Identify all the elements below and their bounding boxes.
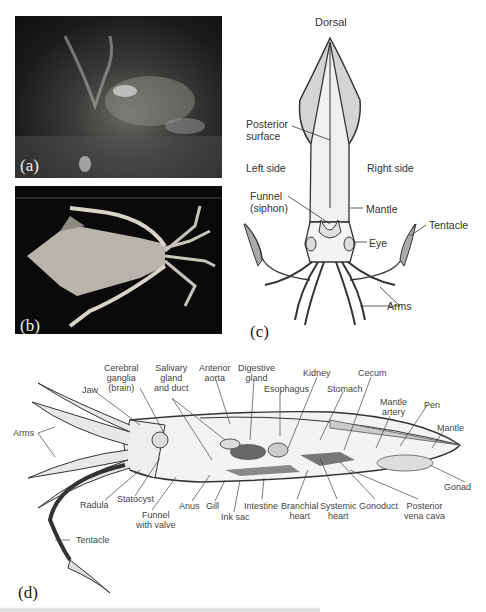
label-vena-cava: vena cava [404, 511, 445, 521]
label-digestive: Digestive [238, 363, 275, 373]
label-ink-sac: Ink sac [221, 512, 250, 522]
label-mantle-artery: Mantle artery [380, 397, 407, 417]
label-systemic-heart-2: heart [320, 511, 357, 521]
label-mantle-artery-2: artery [380, 407, 407, 417]
label-brain: (brain) [104, 383, 139, 393]
label-gonad: Gonad [444, 482, 471, 492]
label-gonoduct: Gonoduct [359, 501, 398, 511]
label-aorta: aorta [199, 373, 231, 383]
label-digestive-gland: Digestive gland [238, 363, 275, 383]
label-funnel-d: Funnel [136, 510, 176, 520]
label-pen: Pen [424, 400, 440, 410]
label-digestive-gland-2: gland [238, 373, 275, 383]
label-esophagus: Esophagus [264, 384, 309, 394]
label-anterior: Anterior [199, 363, 231, 373]
label-posterior-vc: Posterior [404, 501, 445, 511]
label-mantle-artery-1: Mantle [380, 397, 407, 407]
label-branchial: Branchial [281, 501, 319, 511]
label-arms-d: Arms [13, 428, 34, 438]
label-systemic: Systemic [320, 501, 357, 511]
label-gland: gland [154, 373, 189, 383]
label-branchial-heart: Branchial heart [281, 501, 319, 521]
label-salivary-gland: Salivary gland and duct [154, 363, 189, 393]
label-anterior-aorta: Anterior aorta [199, 363, 231, 383]
label-cecum: Cecum [358, 368, 387, 378]
label-with-valve: with valve [136, 520, 176, 530]
label-stomach: Stomach [327, 384, 363, 394]
label-posterior-vena-cava: Posterior vena cava [404, 501, 445, 521]
label-anus: Anus [179, 501, 200, 511]
label-kidney: Kidney [303, 368, 331, 378]
truncated-caption [0, 607, 320, 612]
label-systemic-heart: Systemic heart [320, 501, 357, 521]
panel-label-d: (d) [18, 583, 38, 603]
label-salivary: Salivary [154, 363, 189, 373]
label-radula: Radula [80, 500, 109, 510]
label-ganglia: ganglia [104, 373, 139, 383]
label-statocyst: Statocyst [117, 494, 154, 504]
label-jaw: Jaw [82, 385, 98, 395]
label-and-duct: and duct [154, 383, 189, 393]
label-branchial-heart-2: heart [281, 511, 319, 521]
label-tentacle-d: Tentacle [76, 535, 110, 545]
label-cerebral-ganglia: Cerebral ganglia (brain) [104, 363, 139, 393]
label-cerebral: Cerebral [104, 363, 139, 373]
label-funnel-valve: Funnel with valve [136, 510, 176, 530]
label-intestine: Intestine [244, 501, 278, 511]
label-gill: Gill [206, 501, 219, 511]
label-mantle-d: Mantle [437, 423, 464, 433]
